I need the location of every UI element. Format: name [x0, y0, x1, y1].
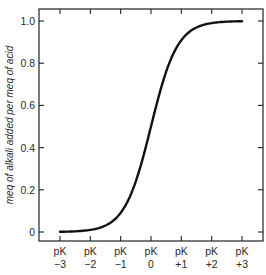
x-tick-label-bottom-line: +3 — [236, 258, 248, 270]
x-tick-label-bottom-line: +1 — [175, 258, 187, 270]
x-tick-label-top-line: pK — [84, 245, 97, 257]
y-tick-label: 0 — [29, 226, 35, 238]
x-tick-label-bottom-line: −1 — [115, 258, 127, 270]
y-tick-label: 0.2 — [20, 184, 35, 196]
y-tick-label: 0.6 — [20, 99, 35, 111]
titration-curve-line — [60, 21, 242, 232]
y-axis-title: meq of alkali added per meq of acid — [4, 45, 15, 204]
x-tick-label-bottom-line: −3 — [54, 258, 66, 270]
x-tick-label-top-line: pK — [145, 245, 158, 257]
x-tick-label-bottom-line: 0 — [148, 258, 154, 270]
x-tick-label-top-line: pK — [54, 245, 67, 257]
y-tick-label: 0.4 — [20, 142, 35, 154]
y-tick-label: 0.8 — [20, 57, 35, 69]
titration-chart: 00.20.40.60.81.0 pK−3pK−2pK−1pK0pK+1pK+2… — [0, 0, 266, 275]
y-axis-ticks: 00.20.40.60.81.0 — [20, 15, 263, 238]
x-tick-label-top-line: pK — [236, 245, 249, 257]
x-tick-label-top-line: pK — [114, 245, 127, 257]
x-tick-label-top-line: pK — [175, 245, 188, 257]
x-tick-label-top-line: pK — [205, 245, 218, 257]
x-tick-label-bottom-line: −2 — [84, 258, 96, 270]
y-tick-label: 1.0 — [20, 15, 35, 27]
x-tick-label-bottom-line: +2 — [206, 258, 218, 270]
